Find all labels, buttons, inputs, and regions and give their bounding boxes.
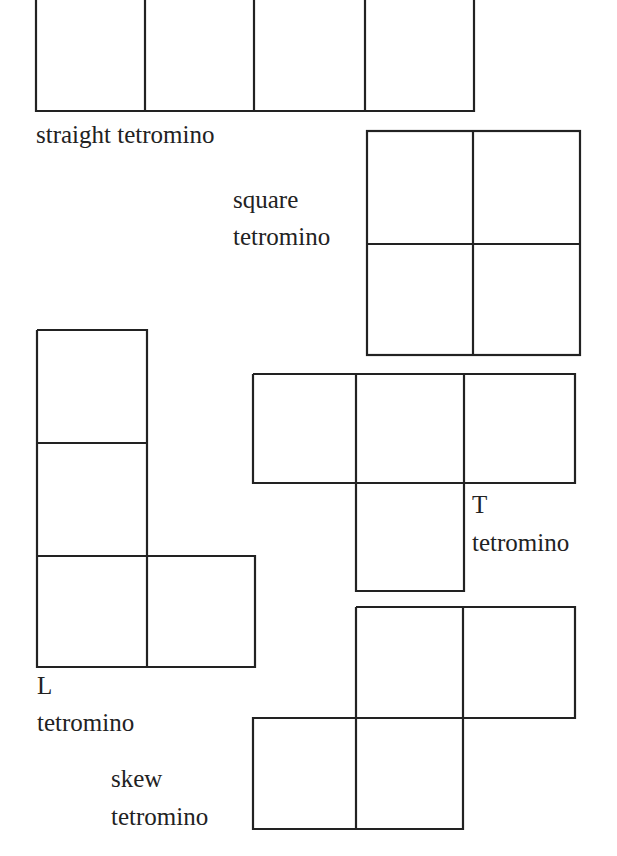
straight-tetromino-label: straight tetromino — [36, 122, 214, 147]
square-tetromino-label-line1: square — [233, 187, 298, 212]
skew-tetromino — [253, 607, 575, 829]
l-tetromino-label-line1: L — [37, 673, 52, 698]
l-tetromino-label-line2: tetromino — [37, 710, 134, 735]
skew-tetromino-label-line2: tetromino — [111, 804, 208, 829]
t-tetromino-label-line2: tetromino — [472, 530, 569, 555]
t-tetromino-label-line1: T — [472, 492, 487, 517]
square-tetromino-label-line2: tetromino — [233, 224, 330, 249]
l-tetromino — [37, 330, 255, 667]
straight-tetromino — [36, 0, 474, 111]
skew-tetromino-label-line1: skew — [111, 766, 162, 791]
t-tetromino — [253, 374, 575, 591]
square-tetromino — [367, 131, 580, 355]
